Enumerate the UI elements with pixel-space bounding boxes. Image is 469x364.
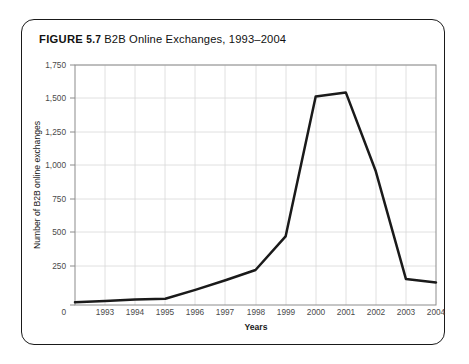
figure-card: FIGURE 5.7 B2B Online Exchanges, 1993–20…: [21, 19, 445, 345]
x-tick-label-2003: 2003: [397, 307, 416, 317]
y-tick-label-0: 0: [61, 307, 66, 317]
y-tick-label-750: 750: [52, 194, 66, 204]
chart-container: 1,750 1,500 1,250 1,000 750 500 250 0 19…: [22, 20, 446, 346]
x-tick-label-1999: 1999: [277, 307, 296, 317]
y-axis-title: Number of B2B online exchanges: [32, 121, 42, 249]
x-tick-label-2002: 2002: [367, 307, 386, 317]
x-tick-label-1994: 1994: [126, 307, 145, 317]
x-tick-label-2004: 2004: [427, 307, 446, 317]
y-tick-label-1500: 1,500: [45, 93, 66, 103]
y-tick-label-250: 250: [52, 261, 66, 271]
y-axis-tick-labels: 1,750 1,500 1,250 1,000 750 500 250 0: [45, 60, 66, 317]
x-tick-label-2001: 2001: [337, 307, 356, 317]
y-tick-label-1000: 1,000: [45, 160, 66, 170]
x-tick-label-1995: 1995: [156, 307, 175, 317]
x-axis-title: Years: [245, 322, 268, 332]
y-tick-label-1250: 1,250: [45, 127, 66, 137]
x-tick-label-1993: 1993: [96, 307, 115, 317]
line-chart: 1,750 1,500 1,250 1,000 750 500 250 0 19…: [22, 20, 446, 346]
x-axis-tick-labels: 1993 1994 1995 1996 1997 1998 1999 2000 …: [96, 307, 446, 317]
y-tick-label-500: 500: [52, 227, 66, 237]
y-axis-ticks: [70, 65, 75, 305]
x-tick-label-1997: 1997: [216, 307, 235, 317]
y-tick-label-1750: 1,750: [45, 60, 66, 70]
x-tick-label-1996: 1996: [186, 307, 205, 317]
x-tick-label-2000: 2000: [307, 307, 326, 317]
x-tick-label-1998: 1998: [247, 307, 266, 317]
data-line-b2b-exchanges: [75, 92, 436, 302]
data-series-group: [75, 92, 436, 302]
